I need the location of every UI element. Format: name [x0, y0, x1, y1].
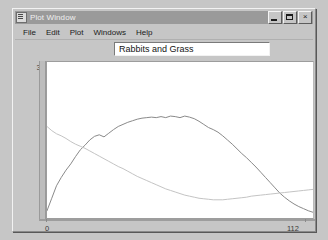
menu-bar: File Edit Plot Windows Help — [15, 26, 313, 40]
close-icon: × — [299, 11, 311, 22]
screen: Plot Window × File Edit Plot Windows Hel… — [0, 0, 328, 240]
title-bar[interactable]: Plot Window × — [15, 11, 313, 24]
minimize-button[interactable] — [268, 11, 282, 24]
x-axis-min-label: 0 — [45, 224, 49, 233]
chart-series-grass — [47, 126, 313, 199]
chart-canvas — [47, 62, 313, 218]
menu-item-plot[interactable]: Plot — [65, 27, 89, 39]
menu-item-edit[interactable]: Edit — [41, 27, 65, 39]
window-controls: × — [268, 11, 313, 24]
plot-title-input[interactable]: Rabbits and Grass — [114, 42, 270, 56]
plot-area[interactable] — [46, 61, 314, 219]
plot-window-icon — [16, 12, 27, 23]
maximize-icon — [286, 14, 293, 20]
menu-item-windows[interactable]: Windows — [88, 27, 130, 39]
minimize-icon — [271, 19, 277, 21]
maximize-button[interactable] — [283, 11, 297, 24]
y-axis — [39, 61, 46, 219]
menu-item-help[interactable]: Help — [131, 27, 157, 39]
x-axis-tick — [305, 219, 306, 222]
x-axis-tick — [46, 219, 47, 222]
title-field-row: Rabbits and Grass — [15, 41, 313, 58]
plot-panel: 300 0 0 112 — [15, 58, 313, 229]
x-axis-max-label: 112 — [287, 224, 299, 233]
x-axis — [39, 219, 315, 221]
chart-series-rabbits — [47, 116, 313, 212]
menu-item-file[interactable]: File — [18, 27, 41, 39]
window-title: Plot Window — [30, 11, 76, 24]
plot-window: Plot Window × File Edit Plot Windows Hel… — [12, 8, 316, 232]
close-button[interactable]: × — [298, 11, 312, 24]
